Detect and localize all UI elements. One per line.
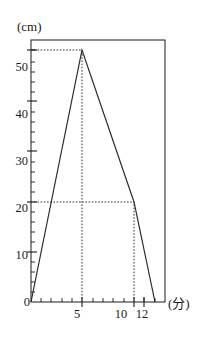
- plot-frame: [31, 40, 165, 302]
- x-axis-unit-label: (分): [168, 297, 190, 310]
- y-tick-label-20: 20: [6, 202, 28, 215]
- y-axis-minor-ticks: [31, 50, 35, 292]
- y-tick-label-50: 50: [6, 61, 28, 74]
- y-tick-label-0: 0: [8, 296, 30, 309]
- x-axis-minor-ticks: [41, 298, 155, 302]
- y-axis-unit-label: (cm): [17, 20, 42, 33]
- x-tick-label-10: 10: [110, 308, 132, 321]
- x-tick-label-5: 5: [66, 308, 88, 321]
- y-tick-label-30: 30: [6, 155, 28, 168]
- x-tick-label-12: 12: [131, 308, 153, 321]
- guide-lines: [31, 50, 134, 302]
- chart-figure: (cm) (分) 0 10 20 30 40 50 5 10 12: [0, 0, 202, 348]
- y-tick-label-40: 40: [6, 108, 28, 121]
- data-series-height: [31, 50, 155, 302]
- y-tick-label-10: 10: [6, 249, 28, 262]
